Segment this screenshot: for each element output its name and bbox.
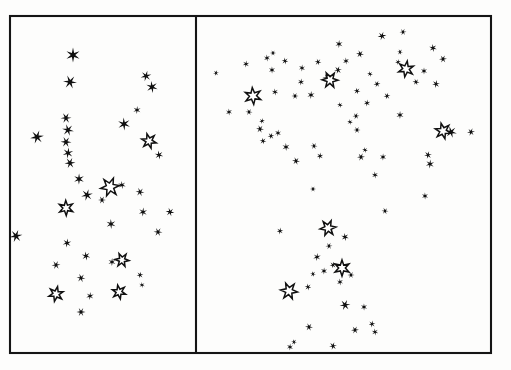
panel-hitboxes <box>10 16 491 353</box>
star-chart-figure <box>0 0 511 370</box>
star-field-canvas <box>0 0 511 370</box>
left-panel[interactable] <box>10 16 196 353</box>
